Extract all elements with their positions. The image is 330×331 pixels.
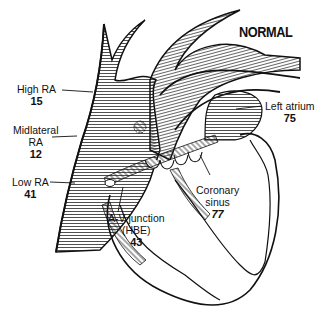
label-text: High RA <box>17 83 56 95</box>
heart-diagram: NORMAL High RA 15 Midlateral RA 12 Low R… <box>0 0 330 331</box>
sa-node <box>134 121 146 133</box>
label-value: 77 <box>196 208 239 220</box>
label-text: sinus <box>196 196 239 208</box>
label-left-atrium: Left atrium 75 <box>265 100 315 124</box>
label-text: Low RA <box>12 176 49 188</box>
label-low-ra: Low RA 41 <box>12 176 49 200</box>
label-value: 15 <box>17 95 56 107</box>
label-av-junction: A-V junction (HBE) 43 <box>108 212 165 248</box>
label-text: Midlateral <box>13 124 59 136</box>
label-text: Left atrium <box>265 100 315 112</box>
label-midlateral-ra: Midlateral RA 12 <box>13 124 59 160</box>
label-value: 75 <box>265 112 315 124</box>
label-coronary-sinus: Coronary sinus 77 <box>196 184 239 220</box>
heart-illustration <box>0 0 330 331</box>
label-value: 12 <box>13 148 59 160</box>
label-text: Coronary <box>196 184 239 196</box>
label-value: 41 <box>12 188 49 200</box>
label-text: (HBE) <box>108 224 165 236</box>
label-value: 43 <box>108 236 165 248</box>
label-text: A-V junction <box>108 212 165 224</box>
label-text: RA <box>13 136 59 148</box>
left-atrium <box>205 91 262 140</box>
diagram-title: NORMAL <box>239 23 292 40</box>
label-high-ra: High RA 15 <box>17 83 56 107</box>
